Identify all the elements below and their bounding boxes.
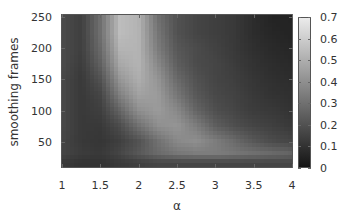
colorbar-tick-label: 0.1 <box>320 140 338 153</box>
tick-mark <box>100 14 101 18</box>
x-tick-label: 3.5 <box>245 179 263 192</box>
x-tick-label: 1.5 <box>92 179 110 192</box>
y-tick-label: 250 <box>31 11 52 24</box>
colorbar-tick-label: 0.5 <box>320 54 338 67</box>
x-tick-label: 2.5 <box>168 179 186 192</box>
tick-mark <box>139 14 140 18</box>
tick-mark <box>308 39 311 40</box>
tick-mark <box>61 48 65 49</box>
tick-mark <box>308 146 311 147</box>
x-tick-label: 1 <box>59 179 66 192</box>
tick-mark <box>254 14 255 18</box>
tick-mark <box>61 142 65 143</box>
colorbar-tick-label: 0.6 <box>320 32 338 45</box>
tick-mark <box>61 111 65 112</box>
tick-mark <box>215 14 216 18</box>
tick-mark <box>298 60 301 61</box>
y-axis-label: smoothing frames <box>7 37 21 146</box>
x-tick-label: 3 <box>212 179 219 192</box>
colorbar <box>298 17 311 168</box>
x-tick-label: 4 <box>289 179 296 192</box>
y-tick-label: 150 <box>31 73 52 86</box>
tick-mark <box>308 103 311 104</box>
tick-mark <box>61 79 65 80</box>
colorbar-tick-label: 0.2 <box>320 118 338 131</box>
tick-mark <box>289 142 293 143</box>
tick-mark <box>308 17 311 18</box>
tick-mark <box>298 39 301 40</box>
tick-mark <box>177 14 178 18</box>
tick-mark <box>298 103 301 104</box>
tick-mark <box>289 79 293 80</box>
heatmap-plot-area <box>61 14 293 168</box>
colorbar-tick-label: 0.7 <box>320 11 338 24</box>
x-axis-label: α <box>173 199 181 213</box>
tick-mark <box>289 111 293 112</box>
tick-mark <box>289 48 293 49</box>
tick-mark <box>177 164 178 168</box>
tick-mark <box>215 164 216 168</box>
tick-mark <box>298 17 301 18</box>
tick-mark <box>298 168 301 169</box>
colorbar-tick-label: 0.3 <box>320 97 338 110</box>
colorbar-tick-label: 0 <box>320 162 327 175</box>
tick-mark <box>298 82 301 83</box>
y-tick-label: 100 <box>31 104 52 117</box>
tick-mark <box>308 82 311 83</box>
heatmap-canvas <box>62 15 292 167</box>
y-tick-label: 200 <box>31 42 52 55</box>
tick-mark <box>289 17 293 18</box>
tick-mark <box>308 168 311 169</box>
tick-mark <box>254 164 255 168</box>
tick-mark <box>298 125 301 126</box>
y-tick-label: 50 <box>38 135 52 148</box>
tick-mark <box>100 164 101 168</box>
tick-mark <box>62 164 63 168</box>
tick-mark <box>61 17 65 18</box>
tick-mark <box>292 164 293 168</box>
tick-mark <box>308 60 311 61</box>
tick-mark <box>308 125 311 126</box>
tick-mark <box>139 164 140 168</box>
colorbar-tick-label: 0.4 <box>320 75 338 88</box>
x-tick-label: 2 <box>135 179 142 192</box>
tick-mark <box>298 146 301 147</box>
